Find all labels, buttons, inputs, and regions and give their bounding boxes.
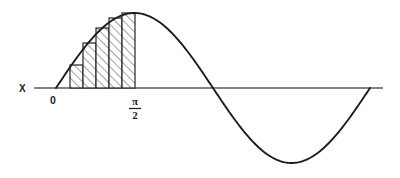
tick-label-pi-over-two: π 2 xyxy=(129,95,141,121)
riemann-rectangle-2 xyxy=(83,43,96,88)
pi-over-two-denominator: 2 xyxy=(132,109,138,121)
x-axis-label: X xyxy=(19,83,26,94)
sine-riemann-figure: X 0 π 2 xyxy=(0,0,400,178)
riemann-rectangle-3 xyxy=(96,28,109,88)
figure-canvas: X 0 π 2 xyxy=(0,0,400,178)
tick-label-origin: 0 xyxy=(50,94,56,106)
riemann-rectangle-1 xyxy=(70,65,83,88)
riemann-rectangle-4 xyxy=(109,18,122,88)
riemann-rectangles-group xyxy=(70,13,135,88)
riemann-rectangle-5 xyxy=(122,13,135,88)
pi-over-two-numerator: π xyxy=(132,95,138,107)
